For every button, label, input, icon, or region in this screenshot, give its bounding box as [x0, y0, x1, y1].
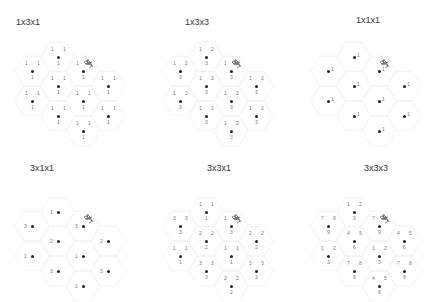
- dot-label: 4: [347, 231, 350, 236]
- lattice-dot: [403, 85, 406, 88]
- panel-title: 3x3x3: [364, 163, 388, 173]
- lattice-dot: [179, 70, 182, 73]
- dot-label: 1: [357, 53, 360, 58]
- dot-label: 1: [230, 260, 233, 265]
- dot-label: 1: [82, 135, 85, 140]
- dot-label: 2: [261, 231, 264, 236]
- lattice-dot: [255, 85, 258, 88]
- dot-label: 3: [24, 224, 27, 229]
- dot-label: 1: [357, 82, 360, 87]
- dot-label: 1: [24, 254, 27, 259]
- dot-label: 3: [100, 269, 103, 274]
- lattice-dot: [353, 211, 356, 214]
- dot-label: 2: [261, 76, 264, 81]
- dot-label: 1: [37, 91, 40, 96]
- lattice-dot: [31, 100, 34, 103]
- dot-label: 1: [185, 246, 188, 251]
- dot-label: 3: [255, 275, 258, 280]
- dot-label: 1: [63, 76, 66, 81]
- dot-label: 7: [347, 261, 350, 266]
- dot-label: 1: [101, 106, 104, 111]
- dot-label: 1: [199, 202, 202, 207]
- dot-label: 3: [230, 135, 233, 140]
- dot-label: 3: [230, 75, 233, 80]
- lattice-dot: [353, 85, 356, 88]
- dot-label: 5: [384, 276, 387, 281]
- dot-label: 1: [57, 90, 60, 95]
- dot-label: 9: [378, 230, 381, 235]
- lattice-dot: [205, 240, 208, 243]
- dot-label: 1: [31, 105, 34, 110]
- dot-label: 1: [249, 106, 252, 111]
- dot-label: 3: [205, 61, 208, 66]
- dot-label: 1: [224, 61, 227, 66]
- lattice-dot: [179, 225, 182, 228]
- dot-label: 2: [75, 284, 78, 289]
- dot-label: 1: [37, 61, 40, 66]
- dot-label: 3: [230, 105, 233, 110]
- dot-label: 3: [75, 224, 78, 229]
- dot-label: 1: [82, 75, 85, 80]
- dot-label: 2: [261, 106, 264, 111]
- dot-label: 2: [211, 76, 214, 81]
- dot-label: 3: [249, 261, 252, 266]
- lattice-dot: [378, 130, 381, 133]
- dot-label: 2: [230, 290, 233, 295]
- lattice-dot: [179, 100, 182, 103]
- dot-label: 1: [76, 91, 79, 96]
- tangle-cluster-icon: [230, 58, 242, 70]
- dot-label: 7: [397, 261, 400, 266]
- dot-label: 1: [249, 76, 252, 81]
- dot-label: 1: [173, 91, 176, 96]
- lattice-dot: [353, 270, 356, 273]
- dot-label: 3: [205, 120, 208, 125]
- dot-label: 1: [50, 210, 53, 215]
- dot-label: 4: [397, 231, 400, 236]
- dot-label: 1: [407, 82, 410, 87]
- lattice-dot: [230, 130, 233, 133]
- dot-label: 1: [205, 216, 208, 221]
- dot-label: 1: [51, 47, 54, 52]
- dot-label: 2: [211, 47, 214, 52]
- panel-1x1x1: 1x1x11111111111: [296, 0, 444, 151]
- lattice-dot: [230, 100, 233, 103]
- dot-label: 6: [403, 245, 406, 250]
- lattice-dot: [378, 100, 381, 103]
- dot-label: 2: [249, 231, 252, 236]
- dot-label: 3: [211, 261, 214, 266]
- dot-label: 3: [199, 261, 202, 266]
- dot-label: 3: [353, 216, 356, 221]
- dot-label: 1: [236, 246, 239, 251]
- dot-label: 1: [88, 121, 91, 126]
- dot-label: 1: [25, 91, 28, 96]
- panel-1x3x1: 1x3x1111111111111111111111111111111: [0, 0, 148, 151]
- lattice-dot: [327, 100, 330, 103]
- lattice-dot: [230, 285, 233, 288]
- dot-label: 1: [372, 246, 375, 251]
- dot-label: 1: [76, 61, 79, 66]
- dot-label: 1: [82, 105, 85, 110]
- dot-label: 9: [403, 275, 406, 280]
- dot-label: 1: [199, 76, 202, 81]
- dot-label: 1: [63, 106, 66, 111]
- dot-label: 1: [407, 112, 410, 117]
- lattice-dot: [327, 70, 330, 73]
- panel-title: 3x1x1: [30, 163, 54, 173]
- hexagon-outlines: [148, 0, 296, 151]
- lattice-dot: [255, 240, 258, 243]
- dot-label: 1: [57, 120, 60, 125]
- dot-label: 2: [359, 202, 362, 207]
- panel-3x3x3: 3x3x3123789789456456123123789789456: [296, 150, 444, 301]
- dot-label: 8: [359, 261, 362, 266]
- lattice-dot: [57, 211, 60, 214]
- lattice-dot: [57, 270, 60, 273]
- dot-label: 3: [185, 216, 188, 221]
- dot-label: 3: [179, 230, 182, 235]
- dot-label: 3: [205, 275, 208, 280]
- lattice-dot: [82, 255, 85, 258]
- hexagon-outlines: [0, 150, 148, 301]
- lattice-dot: [255, 270, 258, 273]
- dot-label: 6: [353, 245, 356, 250]
- panel-3x1x1: 3x1x11332211332: [0, 150, 148, 301]
- tangle-cluster-icon: [378, 58, 390, 70]
